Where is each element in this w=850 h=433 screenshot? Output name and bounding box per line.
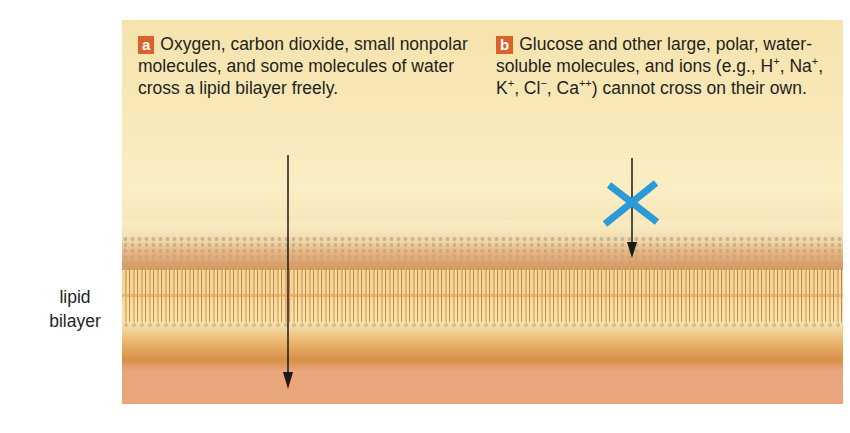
arrow-a-icon <box>283 155 293 389</box>
blocked-x-icon <box>605 183 657 224</box>
arrows-overlay <box>0 0 850 433</box>
